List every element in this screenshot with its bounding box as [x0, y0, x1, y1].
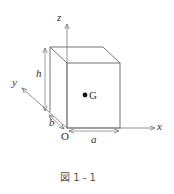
- diagram-drawing: [0, 0, 174, 194]
- center-of-gravity-label: G: [89, 90, 97, 101]
- figure-caption: 図 1 - 1: [60, 173, 96, 183]
- box-edges: [50, 47, 120, 128]
- width-label: a: [91, 134, 97, 145]
- origin-label: O: [61, 131, 69, 142]
- top-left-depth-edge: [50, 47, 67, 63]
- y-axis: [22, 88, 67, 128]
- depth-label: b: [49, 117, 55, 128]
- x-axis-label: x: [157, 121, 162, 132]
- y-axis-label: y: [12, 77, 17, 88]
- rectangular-box-diagram: z y x h b a O G 図 1 - 1: [0, 0, 174, 194]
- center-of-gravity-dot: [83, 93, 88, 98]
- z-axis-label: z: [57, 12, 61, 23]
- height-label: h: [36, 68, 42, 79]
- top-right-depth-edge: [103, 47, 120, 63]
